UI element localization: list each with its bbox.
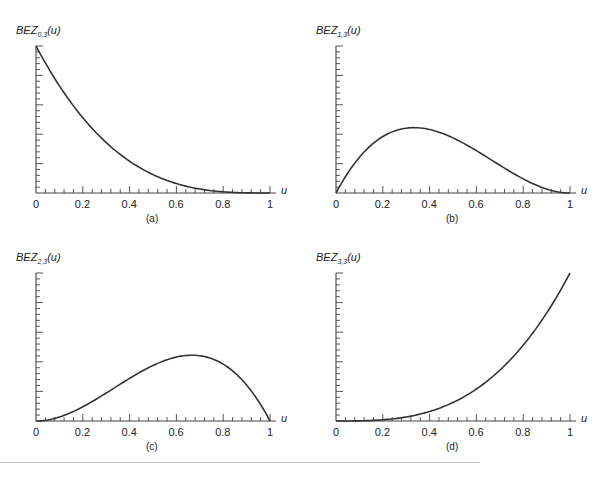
x-tick-label: 0.6: [468, 426, 483, 438]
x-tick-label: 0.2: [375, 426, 390, 438]
caption-separator-line: [0, 462, 480, 463]
x-tick-label: 0.8: [515, 426, 530, 438]
y-axis-label: BEZ3,3(u): [316, 251, 361, 265]
y-label-base: BEZ: [316, 251, 337, 263]
x-axis-label: u: [581, 412, 587, 424]
blending-curve: [336, 273, 570, 421]
x-tick-label: 1: [567, 426, 573, 438]
y-label-subscript: 3,3: [337, 258, 347, 265]
plot-area: [0, 0, 605, 477]
y-label-argument: (u): [347, 251, 360, 263]
x-tick-label: 0: [333, 426, 339, 438]
panel-caption: (d): [446, 441, 458, 452]
x-tick-label: 0.4: [422, 426, 437, 438]
